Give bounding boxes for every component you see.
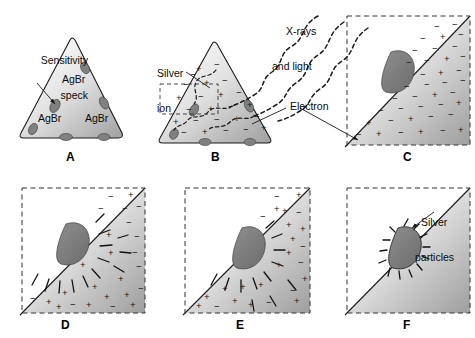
svg-text:−: − <box>266 297 272 308</box>
svg-text:−: − <box>98 203 104 214</box>
svg-text:+: + <box>204 291 210 302</box>
svg-text:+: + <box>276 259 282 270</box>
svg-text:+: + <box>286 247 292 258</box>
svg-text:+: + <box>286 219 292 230</box>
svg-text:+: + <box>408 113 414 124</box>
svg-text:+: + <box>232 295 238 306</box>
svg-text:+: + <box>294 295 300 306</box>
svg-text:−: − <box>406 57 412 68</box>
svg-text:−: − <box>388 115 394 126</box>
silver-ion-label: Silver ion <box>157 45 207 126</box>
agbr-label-right: AgBr <box>85 113 108 125</box>
svg-text:+: + <box>130 299 136 310</box>
svg-text:+: + <box>240 281 246 292</box>
panel-letter-d: D <box>61 318 70 332</box>
figure-latent-image-formation: + − − + − + − + − − + − + + − − + − − + … <box>0 0 475 338</box>
svg-text:−: − <box>420 33 426 44</box>
svg-text:+: + <box>258 279 264 290</box>
svg-text:−: − <box>108 191 114 202</box>
svg-text:+: + <box>222 283 228 294</box>
svg-text:−: − <box>138 283 144 294</box>
svg-text:−: − <box>223 125 229 136</box>
svg-text:+: + <box>290 233 296 244</box>
svg-text:+: + <box>62 287 68 298</box>
svg-text:−: − <box>398 103 404 114</box>
svg-text:+: + <box>80 259 86 270</box>
panel-e-ion-attraction: − + + − − + + + + + − + − + + + − + + − … <box>183 188 310 315</box>
svg-text:−: − <box>378 105 384 116</box>
svg-text:−: − <box>424 55 430 66</box>
svg-text:+: + <box>296 189 302 200</box>
svg-text:−: − <box>458 29 464 40</box>
svg-text:−: − <box>356 129 362 140</box>
svg-text:+: + <box>302 273 308 284</box>
svg-text:+: + <box>128 189 134 200</box>
svg-text:+: + <box>106 229 112 240</box>
svg-text:−: − <box>222 75 228 86</box>
svg-text:−: − <box>412 45 418 56</box>
svg-text:+: + <box>46 296 52 307</box>
svg-text:−: − <box>243 124 249 135</box>
svg-text:−: − <box>424 79 430 90</box>
svg-text:−: − <box>460 75 466 86</box>
svg-text:−: − <box>214 59 220 70</box>
svg-text:+: + <box>440 31 446 42</box>
svg-text:+: + <box>418 126 424 137</box>
svg-text:−: − <box>260 211 266 222</box>
svg-text:+: + <box>202 126 208 137</box>
svg-text:−: − <box>214 301 220 312</box>
svg-text:−: − <box>136 201 142 212</box>
svg-text:+: + <box>444 53 450 64</box>
panel-letter-e: E <box>236 318 244 332</box>
svg-text:−: − <box>442 77 448 88</box>
svg-text:−: − <box>274 191 280 202</box>
panel-letter-a: A <box>66 150 75 164</box>
svg-text:−: − <box>70 299 76 310</box>
agbr-label-left: AgBr <box>38 113 61 125</box>
svg-text:+: + <box>108 247 114 258</box>
electron-label: Electron <box>290 101 329 113</box>
svg-text:−: − <box>132 247 138 258</box>
svg-text:−: − <box>428 111 434 122</box>
svg-text:+: + <box>86 299 92 310</box>
svg-text:+: + <box>247 99 253 110</box>
svg-text:−: − <box>236 87 242 98</box>
svg-text:+: + <box>458 124 464 135</box>
xrays-and-light-label: X-rays and light <box>272 3 352 84</box>
svg-text:−: − <box>440 125 446 136</box>
svg-text:+: + <box>248 299 254 310</box>
svg-text:−: − <box>110 301 116 312</box>
svg-text:−: − <box>214 114 220 125</box>
svg-text:−: − <box>404 81 410 92</box>
panel-d-electron-migration: − + − − − − + − + − + + − + + + + − + − … <box>20 188 145 315</box>
agbr-label-top: AgBr <box>62 74 85 86</box>
svg-text:+: + <box>282 205 288 216</box>
svg-text:+: + <box>56 301 62 312</box>
svg-text:−: − <box>30 293 36 304</box>
svg-text:+: + <box>456 97 462 108</box>
svg-text:+: + <box>218 89 224 100</box>
svg-text:−: − <box>438 99 444 110</box>
svg-text:−: − <box>126 217 132 228</box>
svg-text:−: − <box>122 203 128 214</box>
electron-leader-c <box>300 108 358 140</box>
svg-text:+: + <box>261 122 267 133</box>
svg-text:−: − <box>136 261 142 272</box>
svg-text:−: − <box>181 127 187 138</box>
svg-text:−: − <box>460 51 466 62</box>
svg-text:+: + <box>376 128 382 139</box>
svg-text:−: − <box>398 127 404 138</box>
panel-letter-c: C <box>403 150 412 164</box>
silver-particles-label: Silver particles <box>415 194 475 275</box>
svg-text:+: + <box>274 203 280 214</box>
svg-text:+: + <box>196 300 202 311</box>
svg-text:−: − <box>134 231 140 242</box>
svg-text:+: + <box>366 117 372 128</box>
svg-text:−: − <box>418 101 424 112</box>
svg-text:−: − <box>448 109 454 120</box>
svg-text:−: − <box>452 41 458 52</box>
svg-text:−: − <box>432 43 438 54</box>
svg-text:+: + <box>300 223 306 234</box>
panel-letter-f: F <box>403 318 410 332</box>
svg-text:+: + <box>92 281 98 292</box>
